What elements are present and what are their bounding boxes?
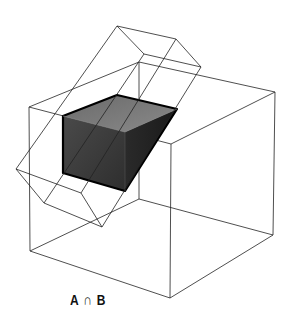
diagram-canvas: A ∩ B — [0, 0, 290, 325]
intersection-solid — [63, 95, 177, 191]
intersection-diagram — [0, 0, 290, 325]
cube-a-wireframe — [29, 62, 275, 298]
intersection-caption: A ∩ B — [70, 291, 106, 308]
